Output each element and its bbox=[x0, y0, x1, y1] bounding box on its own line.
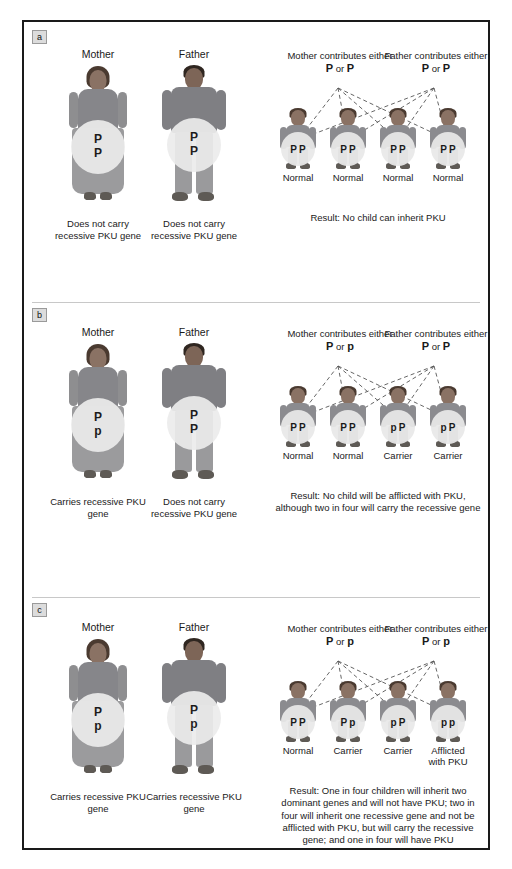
child-label-1: Normal bbox=[272, 172, 324, 183]
panel-a: aMotherPPDoes not carry recessive PKU ge… bbox=[24, 24, 488, 302]
child-4: PPNormal bbox=[422, 108, 474, 183]
parent-genotype-father: Pp bbox=[167, 691, 221, 745]
child-figure-3: pP bbox=[372, 386, 424, 448]
child-figure-2: PP bbox=[322, 386, 374, 448]
child-genotype-2: PP bbox=[331, 410, 365, 444]
parent-caption-mother: Carries recessive PKU gene bbox=[46, 791, 150, 815]
allele-P: P bbox=[190, 131, 198, 145]
child-3: pPCarrier bbox=[372, 681, 424, 756]
parent-figure-mother: Pp bbox=[46, 637, 150, 787]
allele-P: P bbox=[449, 422, 456, 433]
allele-P: P bbox=[290, 422, 297, 433]
allele-p: p bbox=[391, 717, 397, 728]
parents-area: MotherPpCarries recessive PKU geneFather… bbox=[24, 597, 266, 850]
parent-genotype-mother: PP bbox=[71, 120, 125, 174]
children-row: PPNormalPPNormalpPCarrierpPCarrier bbox=[272, 386, 484, 464]
child-4: pPCarrier bbox=[422, 386, 474, 461]
allele-P: P bbox=[94, 706, 102, 720]
parent-caption-father: Does not carry recessive PKU gene bbox=[142, 218, 246, 242]
child-3: pPCarrier bbox=[372, 386, 424, 461]
allele-P: P bbox=[190, 423, 198, 437]
allele-P: P bbox=[399, 422, 406, 433]
child-genotype-2: PP bbox=[331, 132, 365, 166]
child-4: ppAfflicted with PKU bbox=[422, 681, 474, 768]
contributions-row: Mother contributes eitherP or PFather co… bbox=[272, 50, 484, 92]
allele-P: P bbox=[349, 422, 356, 433]
parent-title-father: Father bbox=[142, 621, 246, 633]
parents-area: MotherPPDoes not carry recessive PKU gen… bbox=[24, 24, 266, 302]
result-text-c: Result: One in four children will inheri… bbox=[272, 785, 484, 847]
child-2: PPNormal bbox=[322, 386, 374, 461]
child-figure-4: pp bbox=[422, 681, 474, 743]
allele-P: P bbox=[440, 144, 447, 155]
child-3: PPNormal bbox=[372, 108, 424, 183]
allele-P: P bbox=[340, 422, 347, 433]
allele-P: P bbox=[94, 133, 102, 147]
allele-P: P bbox=[290, 717, 297, 728]
child-2: PPNormal bbox=[322, 108, 374, 183]
parent-mother: MotherPPDoes not carry recessive PKU gen… bbox=[46, 48, 150, 242]
child-figure-4: PP bbox=[422, 108, 474, 170]
contribution-father: Father contributes eitherP or P bbox=[376, 50, 496, 76]
child-genotype-4: pP bbox=[431, 410, 465, 444]
allele-P: P bbox=[94, 411, 102, 425]
allele-P: P bbox=[94, 147, 102, 161]
contribution-label-father: Father contributes either bbox=[376, 328, 496, 339]
child-genotype-3: PP bbox=[381, 132, 415, 166]
child-label-1: Normal bbox=[272, 745, 324, 756]
allele-P: P bbox=[299, 422, 306, 433]
child-label-4: Carrier bbox=[422, 450, 474, 461]
parent-father: FatherPPDoes not carry recessive PKU gen… bbox=[142, 48, 246, 242]
contributions-row: Mother contributes eitherP or pFather co… bbox=[272, 328, 484, 370]
parent-title-father: Father bbox=[142, 48, 246, 60]
child-label-1: Normal bbox=[272, 450, 324, 461]
allele-P: P bbox=[299, 717, 306, 728]
allele-P: P bbox=[349, 144, 356, 155]
parent-title-mother: Mother bbox=[46, 326, 150, 338]
parent-figure-father: Pp bbox=[142, 637, 246, 787]
allele-p: p bbox=[94, 425, 101, 439]
child-figure-2: Pp bbox=[322, 681, 374, 743]
child-genotype-4: pp bbox=[431, 705, 465, 739]
allele-p: p bbox=[449, 717, 455, 728]
parent-genotype-mother: Pp bbox=[71, 398, 125, 452]
child-figure-3: PP bbox=[372, 108, 424, 170]
parent-father: FatherPPDoes not carry recessive PKU gen… bbox=[142, 326, 246, 520]
allele-p: p bbox=[441, 422, 447, 433]
children-row: PPNormalPPNormalPPNormalPPNormal bbox=[272, 108, 484, 186]
child-label-2: Normal bbox=[322, 450, 374, 461]
child-figure-1: PP bbox=[272, 681, 324, 743]
allele-P: P bbox=[190, 704, 198, 718]
child-label-3: Carrier bbox=[372, 450, 424, 461]
allele-P: P bbox=[399, 717, 406, 728]
child-label-4: Normal bbox=[422, 172, 474, 183]
contribution-alleles-father: P or P bbox=[376, 62, 496, 75]
panel-b: bMotherPpCarries recessive PKU geneFathe… bbox=[24, 302, 488, 597]
allele-P: P bbox=[449, 144, 456, 155]
parent-figure-father: PP bbox=[142, 342, 246, 492]
contribution-label-father: Father contributes either bbox=[376, 50, 496, 61]
child-label-2: Normal bbox=[322, 172, 374, 183]
parent-mother: MotherPpCarries recessive PKU gene bbox=[46, 621, 150, 815]
parent-caption-father: Carries recessive PKU gene bbox=[142, 791, 246, 815]
pku-inheritance-figure: aMotherPPDoes not carry recessive PKU ge… bbox=[22, 20, 490, 850]
allele-p: p bbox=[349, 717, 355, 728]
child-genotype-1: PP bbox=[281, 410, 315, 444]
allele-p: p bbox=[391, 422, 397, 433]
child-figure-1: PP bbox=[272, 386, 324, 448]
parent-title-mother: Mother bbox=[46, 48, 150, 60]
parent-caption-mother: Does not carry recessive PKU gene bbox=[46, 218, 150, 242]
child-1: PPNormal bbox=[272, 681, 324, 756]
child-2: PpCarrier bbox=[322, 681, 374, 756]
parents-area: MotherPpCarries recessive PKU geneFather… bbox=[24, 302, 266, 597]
allele-P: P bbox=[341, 717, 348, 728]
allele-p: p bbox=[190, 718, 197, 732]
allele-P: P bbox=[290, 144, 297, 155]
child-genotype-1: PP bbox=[281, 132, 315, 166]
children-row: PPNormalPpCarrierpPCarrierppAfflicted wi… bbox=[272, 681, 484, 759]
child-genotype-3: pP bbox=[381, 410, 415, 444]
child-genotype-3: pP bbox=[381, 705, 415, 739]
child-1: PPNormal bbox=[272, 108, 324, 183]
child-label-2: Carrier bbox=[322, 745, 374, 756]
child-label-3: Carrier bbox=[372, 745, 424, 756]
